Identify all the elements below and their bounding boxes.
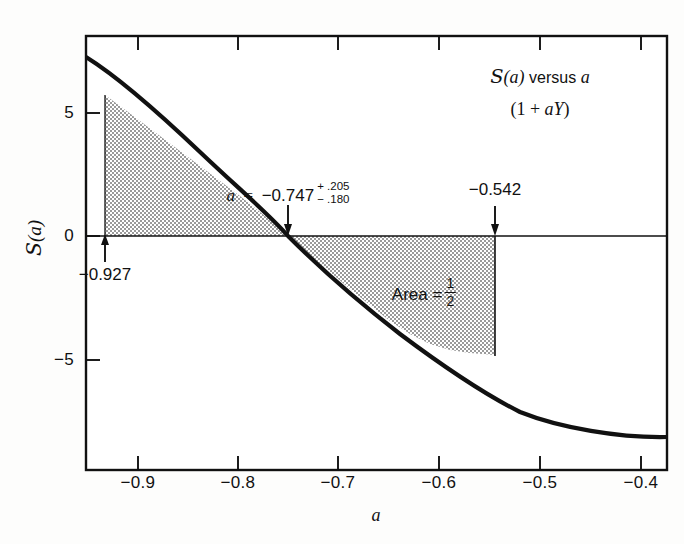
chart-title-line-1: S(a) versus a — [490, 66, 589, 88]
title-line2-open: (1 + — [510, 99, 544, 119]
area-fraction-numerator: 1 — [444, 276, 456, 292]
title-line2-variable: aY — [545, 99, 564, 119]
title-line2-close: ) — [564, 99, 570, 119]
root-value-annotation: a = −0.747+ .205− .180 — [227, 180, 350, 206]
x-axis-title: a — [372, 506, 381, 526]
area-fraction-denominator: 2 — [444, 292, 456, 309]
root-annotation-equals: = — [244, 186, 254, 205]
area-label: Area =12 — [392, 276, 456, 308]
y-axis-title: S(a) — [23, 220, 46, 256]
title-script-symbol: S — [490, 65, 503, 88]
root-annotation-value: −0.747 — [262, 186, 314, 205]
root-annotation-errors: + .205− .180 — [317, 180, 349, 206]
y-axis-title-script-symbol: S — [22, 242, 46, 256]
area-fraction: 12 — [444, 276, 456, 308]
title-versus-word: versus — [529, 69, 576, 86]
x-tick-label-5: −0.4 — [624, 474, 659, 493]
x-tick-label-1: −0.8 — [221, 474, 256, 493]
root-error-minus: − .180 — [317, 193, 349, 206]
root-annotation-lhs: a — [227, 186, 236, 205]
y-tick-label-2: −5 — [34, 351, 74, 370]
upper-limit-label: −0.542 — [469, 181, 521, 200]
title-argument: (a) — [504, 67, 525, 87]
x-tick-label-0: −0.9 — [121, 474, 156, 493]
y-axis-title-rest: (a) — [24, 220, 45, 242]
chart-title-line-2: (1 + aY) — [490, 100, 589, 120]
lower-limit-label: −0.927 — [79, 266, 131, 285]
x-tick-label-4: −0.5 — [523, 474, 558, 493]
chart-title-block: S(a) versus a (1 + aY) — [490, 66, 589, 120]
figure-container: −0.9 −0.8 −0.7 −0.6 −0.5 −0.4 5 0 −5 a S… — [0, 0, 684, 544]
title-variable: a — [581, 67, 590, 87]
x-tick-label-3: −0.6 — [422, 474, 457, 493]
x-tick-label-2: −0.7 — [321, 474, 356, 493]
root-error-plus: + .205 — [317, 180, 349, 193]
y-tick-label-0: 5 — [34, 104, 74, 123]
area-label-text: Area = — [392, 285, 443, 304]
x-axis-title-text: a — [372, 505, 381, 525]
